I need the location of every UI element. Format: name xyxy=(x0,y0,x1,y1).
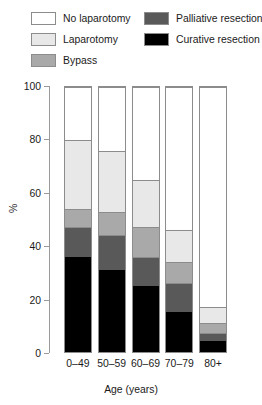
bar-segment-no-laparotomy xyxy=(99,87,125,151)
legend-label-palliative-resection: Palliative resection xyxy=(176,13,262,24)
legend-item-palliative-resection: Palliative resection xyxy=(144,12,262,25)
legend-item-no-laparotomy: No laparotomy xyxy=(31,12,131,25)
bar-segment-curative-resection xyxy=(65,257,91,352)
plot-area: 020406080100 0–4950–5960–6970–7980+ xyxy=(49,86,232,353)
bar-80+ xyxy=(199,86,227,353)
legend-swatch-no-laparotomy xyxy=(31,12,56,25)
bar-group xyxy=(49,86,232,353)
legend-item-laparotomy: Laparotomy xyxy=(31,33,118,46)
bar-70-79 xyxy=(165,86,193,353)
y-tick-label: 100 xyxy=(24,81,41,92)
bar-segment-laparotomy xyxy=(200,307,226,323)
y-axis-label: % xyxy=(8,204,19,213)
bar-segment-palliative-resection xyxy=(99,235,125,269)
legend-swatch-laparotomy xyxy=(31,33,56,46)
x-tick-label: 80+ xyxy=(183,358,243,369)
bar-segment-no-laparotomy xyxy=(200,87,226,307)
y-tick-mark xyxy=(44,353,49,354)
bar-segment-curative-resection xyxy=(200,341,226,352)
bar-segment-curative-resection xyxy=(99,270,125,352)
bar-50-59 xyxy=(98,86,126,353)
figure-stacked-bar-chart: No laparotomy Laparotomy Bypass Palliati… xyxy=(0,0,262,405)
bar-segment-no-laparotomy xyxy=(166,87,192,230)
legend-swatch-bypass xyxy=(31,54,56,67)
bar-segment-laparotomy xyxy=(99,151,125,212)
bar-segment-no-laparotomy xyxy=(133,87,159,180)
bar-segment-bypass xyxy=(200,323,226,334)
bar-60-69 xyxy=(132,86,160,353)
legend-label-laparotomy: Laparotomy xyxy=(63,34,118,45)
legend-label-bypass: Bypass xyxy=(63,55,97,66)
bar-segment-no-laparotomy xyxy=(65,87,91,140)
bar-segment-palliative-resection xyxy=(166,283,192,312)
y-tick-label: 20 xyxy=(29,294,41,305)
legend-label-curative-resection: Curative resection xyxy=(176,34,260,45)
bar-segment-laparotomy xyxy=(133,180,159,228)
legend-swatch-palliative-resection xyxy=(144,12,169,25)
x-axis-label: Age (years) xyxy=(0,384,262,395)
y-tick-label: 60 xyxy=(29,187,41,198)
chart-legend: No laparotomy Laparotomy Bypass Palliati… xyxy=(31,12,255,70)
bar-segment-palliative-resection xyxy=(200,333,226,341)
legend-item-bypass: Bypass xyxy=(31,54,97,67)
bar-segment-bypass xyxy=(99,212,125,236)
bar-0-49 xyxy=(64,86,92,353)
legend-swatch-curative-resection xyxy=(144,33,169,46)
y-tick-label: 80 xyxy=(29,134,41,145)
y-tick-label: 40 xyxy=(29,241,41,252)
bar-segment-curative-resection xyxy=(133,286,159,352)
y-tick-label: 0 xyxy=(35,348,41,359)
bar-segment-bypass xyxy=(166,262,192,283)
bar-segment-bypass xyxy=(65,209,91,228)
bar-segment-laparotomy xyxy=(166,230,192,262)
bar-segment-laparotomy xyxy=(65,140,91,209)
legend-item-curative-resection: Curative resection xyxy=(144,33,260,46)
bar-segment-curative-resection xyxy=(166,312,192,352)
legend-label-no-laparotomy: No laparotomy xyxy=(63,13,131,24)
bar-segment-palliative-resection xyxy=(133,257,159,286)
bar-segment-palliative-resection xyxy=(65,227,91,256)
bar-segment-bypass xyxy=(133,227,159,256)
